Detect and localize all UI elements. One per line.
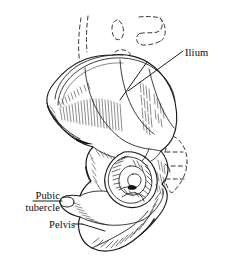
label-pubic-tubercle-line2: tubercle	[8, 202, 60, 214]
pelvis-illustration-svg	[0, 0, 226, 270]
pelvis-figure: Ilium Pubic tubercle Pelvis	[0, 0, 226, 270]
acetabulum	[105, 152, 157, 208]
label-pelvis: Pelvis	[49, 219, 75, 231]
label-ilium: Ilium	[185, 47, 208, 59]
label-pubic-tubercle-line1: Pubic	[8, 190, 60, 202]
label-pubic-tubercle: Pubic tubercle	[8, 190, 60, 213]
